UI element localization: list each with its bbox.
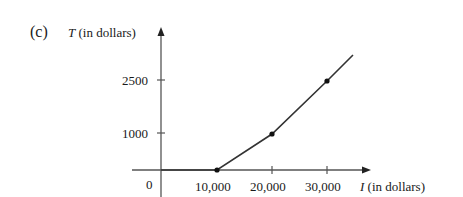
- x-axis-unit: (in dollars): [368, 179, 425, 194]
- y-tick-label-1000: 1000: [122, 127, 148, 140]
- x-axis-label: I (in dollars): [360, 180, 425, 193]
- data-point-20000: [269, 131, 274, 136]
- x-tick-label-30000: 30,000: [305, 180, 341, 193]
- y-axis-variable: T: [68, 25, 75, 40]
- y-axis-label: T (in dollars): [68, 26, 136, 39]
- figure-part-label: (c): [30, 24, 48, 40]
- data-point-10000: [214, 167, 219, 172]
- data-point-30000: [324, 78, 329, 83]
- y-axis-unit: (in dollars): [78, 25, 135, 40]
- x-axis-arrow-icon: [362, 167, 371, 174]
- y-axis-arrow-icon: [158, 27, 165, 36]
- origin-label: 0: [146, 178, 153, 191]
- x-axis-variable: I: [360, 179, 364, 194]
- x-tick-label-10000: 10,000: [195, 180, 231, 193]
- y-tick-label-2500: 2500: [122, 74, 148, 87]
- tax-line: [161, 55, 353, 170]
- x-tick-label-20000: 20,000: [250, 180, 286, 193]
